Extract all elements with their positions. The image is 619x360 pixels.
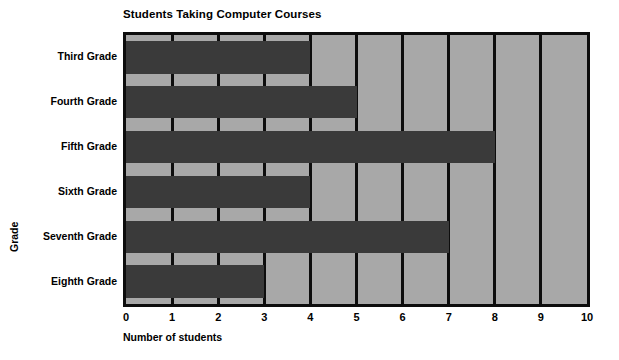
plot-area bbox=[123, 32, 590, 307]
bar-fourth-grade bbox=[126, 86, 357, 118]
gridline-6 bbox=[401, 35, 404, 304]
x-tick-label-7: 7 bbox=[437, 311, 461, 323]
gridline-7 bbox=[447, 35, 450, 304]
x-axis-title: Number of students bbox=[123, 331, 222, 343]
gridline-5 bbox=[355, 35, 358, 304]
gridline-8 bbox=[493, 35, 496, 304]
x-tick-label-3: 3 bbox=[252, 311, 276, 323]
x-tick-label-1: 1 bbox=[160, 311, 184, 323]
bar-fifth-grade bbox=[126, 131, 495, 163]
x-tick-label-0: 0 bbox=[114, 311, 138, 323]
gridline-2 bbox=[217, 35, 220, 304]
x-tick-label-4: 4 bbox=[298, 311, 322, 323]
x-tick-label-2: 2 bbox=[206, 311, 230, 323]
gridline-1 bbox=[171, 35, 174, 304]
x-tick-label-9: 9 bbox=[529, 311, 553, 323]
plot-inner bbox=[126, 35, 587, 304]
y-tick-label-fourth-grade: Fourth Grade bbox=[5, 95, 123, 107]
y-axis-tick-labels: Third GradeFourth GradeFifth GradeSixth … bbox=[0, 0, 123, 360]
y-tick-label-sixth-grade: Sixth Grade bbox=[5, 185, 123, 197]
bar-seventh-grade bbox=[126, 221, 449, 253]
bar-sixth-grade bbox=[126, 176, 310, 208]
gridline-4 bbox=[309, 35, 312, 304]
gridline-9 bbox=[539, 35, 542, 304]
y-tick-label-seventh-grade: Seventh Grade bbox=[5, 230, 123, 242]
gridline-3 bbox=[263, 35, 266, 304]
x-tick-label-6: 6 bbox=[391, 311, 415, 323]
bar-third-grade bbox=[126, 41, 310, 73]
chart-title: Students Taking Computer Courses bbox=[123, 8, 322, 20]
bar-eighth-grade bbox=[126, 265, 264, 297]
y-tick-label-fifth-grade: Fifth Grade bbox=[5, 140, 123, 152]
x-tick-label-8: 8 bbox=[483, 311, 507, 323]
y-tick-label-eighth-grade: Eighth Grade bbox=[5, 275, 123, 287]
x-tick-label-5: 5 bbox=[345, 311, 369, 323]
bar-chart: Students Taking Computer Courses Third G… bbox=[0, 0, 619, 360]
x-tick-label-10: 10 bbox=[575, 311, 599, 323]
y-tick-label-third-grade: Third Grade bbox=[5, 50, 123, 62]
y-axis-title: Grade bbox=[8, 222, 20, 252]
